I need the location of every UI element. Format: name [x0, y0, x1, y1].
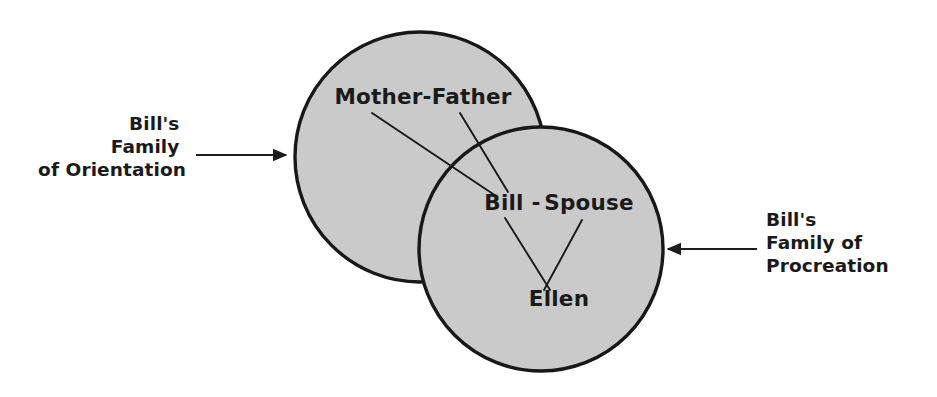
side-label-right-line-1: Bill's	[766, 209, 816, 230]
venn-diagram-root: Mother-Father Bill - Spouse Ellen Bill's…	[0, 0, 937, 397]
label-spouse: Spouse	[544, 190, 634, 215]
side-label-family-of-procreation: Bill's Family of Procreation	[766, 209, 889, 276]
side-label-left-line-1: Bill's	[129, 113, 179, 134]
side-label-left-line-3: of Orientation	[38, 159, 186, 180]
label-marriage-dash: -	[531, 190, 540, 215]
side-label-left-line-2: Family	[111, 136, 180, 157]
label-ellen: Ellen	[529, 286, 589, 311]
circle-family-of-procreation[interactable]	[419, 127, 663, 371]
side-label-family-of-orientation: Bill's Family of Orientation	[38, 113, 186, 180]
venn-diagram-canvas: Mother-Father Bill - Spouse Ellen Bill's…	[0, 0, 937, 397]
side-label-right-line-3: Procreation	[766, 255, 889, 276]
label-mother-father: Mother-Father	[334, 84, 511, 109]
side-label-right-line-2: Family of	[766, 232, 863, 253]
label-bill: Bill	[484, 190, 523, 215]
